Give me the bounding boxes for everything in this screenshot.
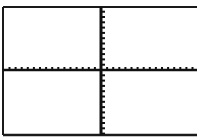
x-tick [21,67,23,70]
y-tick [102,32,105,34]
x-tick [137,67,139,70]
x-tick [192,67,194,70]
x-tick [63,67,65,70]
y-tick [102,48,105,50]
y-tick [102,11,105,13]
x-tick [173,67,175,70]
x-tick [179,67,181,70]
x-tick [118,67,120,70]
y-tick [102,16,105,18]
x-tick [76,67,78,70]
graph-screen [0,0,197,140]
y-tick [102,90,105,92]
y-tick [102,27,105,29]
y-tick [102,64,105,66]
y-tick [102,122,105,124]
y-tick [102,58,105,60]
x-tick [51,67,53,70]
y-tick [102,117,105,119]
x-tick [155,67,157,70]
x-tick [94,67,96,70]
x-tick [39,67,41,70]
x-tick [124,67,126,70]
y-tick [102,74,105,76]
x-tick [161,67,163,70]
x-tick [70,67,72,70]
x-tick [185,67,187,70]
y-tick [102,43,105,45]
y-tick [102,96,105,98]
x-tick [143,67,145,70]
y-tick [102,37,105,39]
x-tick [88,67,90,70]
graph-plot [0,0,197,140]
x-tick [149,67,151,70]
y-tick [102,101,105,103]
x-tick [82,67,84,70]
x-tick [9,67,11,70]
x-tick [33,67,35,70]
x-tick [45,67,47,70]
y-tick [102,133,105,135]
y-tick [102,85,105,87]
y-tick [102,21,105,23]
y-tick [102,127,105,129]
x-tick [57,67,59,70]
x-tick [106,67,108,70]
y-tick [102,53,105,55]
x-tick [15,67,17,70]
x-tick [27,67,29,70]
y-tick [102,106,105,108]
y-tick [102,80,105,82]
x-tick [112,67,114,70]
y-tick [102,111,105,113]
x-tick [167,67,169,70]
x-tick [131,67,133,70]
